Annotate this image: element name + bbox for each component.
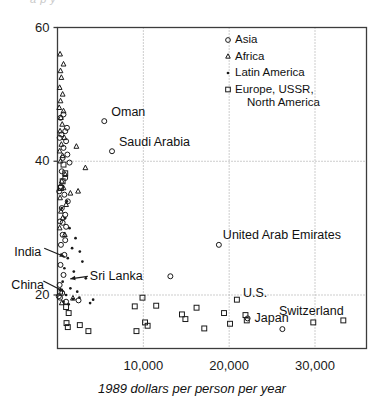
data-point-triangle <box>68 190 73 195</box>
data-point-dot <box>78 250 81 253</box>
data-point-square <box>66 311 71 316</box>
data-point-triangle <box>74 144 79 149</box>
data-point-square <box>234 297 239 302</box>
data-point-dot <box>66 200 69 203</box>
annotation-oman: Oman <box>111 106 145 119</box>
y-tick-60: 60 <box>0 21 50 34</box>
data-point-triangle <box>60 122 65 127</box>
data-point-dot <box>63 267 66 270</box>
legend-label-asia: Asia <box>235 34 257 46</box>
data-point-triangle <box>58 98 63 103</box>
data-point-square <box>222 311 227 316</box>
data-point-dot <box>72 298 75 301</box>
data-point-square <box>228 321 233 326</box>
data-point-dot <box>64 217 67 220</box>
data-point-circle <box>61 272 66 277</box>
data-point-circle <box>110 149 115 154</box>
data-point-circle <box>102 119 107 124</box>
data-point-square <box>183 317 188 322</box>
annotation-switzerland: Switzerland <box>251 305 371 318</box>
data-point-dot <box>60 207 63 210</box>
plot-frame <box>58 28 367 349</box>
data-point-circle <box>62 192 67 197</box>
data-point-circle <box>280 327 285 332</box>
annotation-arrows <box>43 248 87 291</box>
data-point-dot <box>81 260 84 263</box>
data-point-square <box>132 304 137 309</box>
x-tick-30000: 30,000 <box>270 359 360 372</box>
data-point-dot <box>89 302 92 305</box>
data-point-dot <box>78 296 81 299</box>
data-point-square <box>77 323 82 328</box>
plot-canvas <box>0 0 384 401</box>
x-tick-20000: 20,000 <box>184 359 274 372</box>
data-point-dot <box>227 72 230 75</box>
data-point-dot <box>61 280 64 283</box>
data-point-dot <box>71 247 74 250</box>
annotation-sri-lanka: Sri Lanka <box>90 270 143 283</box>
data-point-square <box>341 318 346 323</box>
data-point-triangle <box>61 61 66 66</box>
data-point-dot <box>74 237 77 240</box>
data-point-dot <box>62 300 65 303</box>
data-point-triangle <box>64 202 69 207</box>
annotation-india: India <box>14 246 41 259</box>
data-point-triangle <box>59 75 64 80</box>
data-point-dot <box>92 298 95 301</box>
data-point-square <box>140 295 145 300</box>
data-point-triangle <box>58 51 63 56</box>
data-point-circle <box>65 152 70 157</box>
annotation-china: China <box>11 279 44 292</box>
data-point-dot <box>84 277 87 280</box>
data-point-square <box>194 305 199 310</box>
data-point-dot <box>68 227 71 230</box>
data-point-triangle <box>59 142 64 147</box>
data-point-circle <box>58 242 63 247</box>
data-point-triangle <box>60 92 65 97</box>
data-point-triangle <box>76 188 81 193</box>
legend-label-latin-america: Latin America <box>235 67 305 79</box>
x-tick-10000: 10,000 <box>98 359 188 372</box>
data-point-dot <box>76 290 79 293</box>
data-point-dot <box>66 257 69 260</box>
data-point-circle <box>63 238 68 243</box>
data-point-square <box>202 326 207 331</box>
y-tick-40: 40 <box>0 154 50 167</box>
data-point-dot <box>69 287 72 290</box>
data-point-triangle <box>83 165 88 170</box>
data-point-triangle <box>226 54 231 58</box>
gridlines <box>58 28 367 349</box>
data-point-circle <box>58 262 63 267</box>
data-point-triangle <box>58 68 63 73</box>
data-point-square <box>86 329 91 334</box>
annotation-u-s: U.S. <box>243 287 267 300</box>
data-point-dot <box>72 270 75 273</box>
legend-label-north-america: North America <box>247 97 320 109</box>
data-point-square <box>180 312 185 317</box>
data-point-square <box>154 303 159 308</box>
x-axis-title: 1989 dollars per person per year <box>0 382 384 395</box>
data-point-circle <box>216 242 221 247</box>
data-point-circle <box>168 274 173 279</box>
data-point-dot <box>65 294 68 297</box>
data-point-square <box>134 329 139 334</box>
annotation-saudi-arabia: Saudi Arabia <box>119 136 190 149</box>
scatter-plot-figure: a p y 204060 10,00020,00030,000 OmanSaud… <box>0 0 384 401</box>
legend-label-africa: Africa <box>235 51 264 63</box>
legend-label-europe-ussr: Europe, USSR, <box>235 84 314 96</box>
annotation-united-arab-emirates: United Arab Emirates <box>223 229 341 242</box>
